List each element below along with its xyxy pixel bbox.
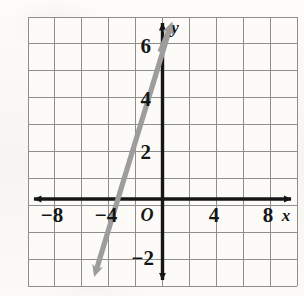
x-tick-label-neg8: −8 — [41, 203, 63, 227]
x-tick-label-pos8: 8 — [263, 203, 274, 227]
y-axis-letter-label: y — [169, 18, 179, 37]
y-tick-label-pos6: 6 — [141, 34, 152, 58]
y-tick-label-neg2: −2 — [132, 246, 154, 270]
y-tick-label-pos4: 4 — [141, 87, 152, 111]
x-axis-letter-label: x — [281, 206, 291, 225]
y-tick-label-pos2: 2 — [141, 140, 152, 164]
coordinate-plane-figure: −8 −4 O 4 8 x 6 4 2 −2 y — [0, 0, 304, 296]
x-tick-label-pos4: 4 — [209, 203, 220, 227]
x-tick-label-neg4: −4 — [95, 203, 118, 227]
graph-page: −8 −4 O 4 8 x 6 4 2 −2 y — [0, 0, 304, 296]
origin-label: O — [141, 205, 154, 225]
